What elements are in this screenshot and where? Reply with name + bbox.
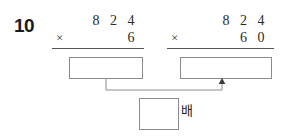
multiplier-row-left: × 6 [52, 29, 144, 46]
multiplicand-left: 8 2 4 [93, 12, 139, 29]
multiplicand-right: 8 2 4 [223, 12, 269, 29]
multiplier-left: 6 [128, 29, 139, 46]
problem-number: 10 [14, 16, 34, 35]
multiply-icon: × [56, 29, 63, 46]
horizontal-rule-left [52, 48, 144, 49]
multiplicand-row-left: 8 2 4 [52, 12, 144, 29]
multiplication-problem-left: 8 2 4 × 6 [52, 12, 144, 46]
unit-label: 배 [181, 104, 193, 117]
worksheet-page: 10 8 2 4 × 6 8 2 4 × 6 0 배 [0, 0, 284, 136]
multiplier-row-right: × 6 0 [167, 29, 274, 46]
multiply-icon: × [171, 29, 178, 46]
multiplier-right: 6 0 [240, 29, 268, 46]
multiplicand-row-right: 8 2 4 [167, 12, 274, 29]
answer-box-comparison[interactable] [139, 98, 179, 130]
answer-box-left[interactable] [69, 57, 143, 79]
answer-box-right[interactable] [180, 57, 272, 79]
connector-path [106, 79, 222, 90]
horizontal-rule-right [167, 48, 274, 49]
multiplication-problem-right: 8 2 4 × 6 0 [167, 12, 274, 46]
